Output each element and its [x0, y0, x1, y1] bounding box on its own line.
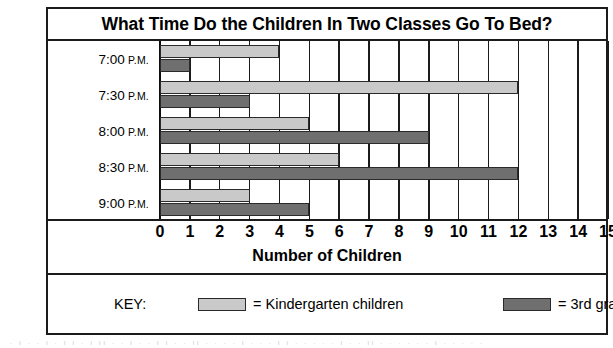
kindergarten-swatch	[198, 298, 246, 311]
bar-kindergarten	[160, 153, 339, 166]
x-tick-label: 2	[215, 223, 224, 241]
x-tick-label: 5	[305, 223, 314, 241]
category-period: P.M.	[125, 162, 149, 174]
plot-band: 7:00 P.M.7:30 P.M.8:00 P.M.8:30 P.M.9:00…	[48, 41, 606, 221]
bar-kindergarten	[160, 81, 518, 94]
gridline-11	[488, 41, 490, 219]
legend-label: = Kindergarten children	[253, 296, 403, 312]
x-tick-label: 7	[365, 223, 374, 241]
category-label: 7:00 P.M.	[99, 52, 149, 67]
x-tick-label: 10	[450, 223, 468, 241]
category-time: 8:30	[99, 160, 125, 175]
title-band: What Time Do the Children In Two Classes…	[48, 9, 606, 41]
x-tick-label: 6	[335, 223, 344, 241]
bar-kindergarten	[160, 45, 279, 58]
x-tick-label: 11	[480, 223, 497, 241]
gridline-15	[607, 41, 609, 219]
x-tick-label: 12	[509, 223, 527, 241]
bar-third-grade	[160, 203, 309, 216]
legend-item: = 3rd grade children	[503, 296, 613, 312]
gridline-14	[577, 41, 579, 219]
scan-artifact: · I · · I · I I · I II · · I · · I I · ·…	[10, 340, 530, 345]
x-tick-label: 9	[424, 223, 433, 241]
x-tick-label: 13	[539, 223, 557, 241]
category-period: P.M.	[125, 90, 149, 102]
x-tick-label: 14	[569, 223, 587, 241]
gridline-13	[548, 41, 550, 219]
third-grade-swatch	[503, 298, 551, 311]
bar-third-grade	[160, 95, 250, 108]
x-tick-label: 8	[394, 223, 403, 241]
legend-item: = Kindergarten children	[198, 296, 403, 312]
gridline-8	[398, 41, 400, 219]
x-tick-label: 4	[275, 223, 284, 241]
category-label: 7:30 P.M.	[99, 88, 149, 103]
bar-third-grade	[160, 131, 429, 144]
bar-kindergarten	[160, 189, 250, 202]
gridline-6	[338, 41, 340, 219]
legend-key-label: KEY:	[114, 296, 146, 312]
gridline-12	[518, 41, 520, 219]
gridline-9	[428, 41, 430, 219]
category-label: 8:30 P.M.	[99, 160, 149, 175]
x-tick-label: 0	[156, 223, 165, 241]
chart-page: Time of Day What Time Do the Children In…	[0, 0, 613, 348]
bar-third-grade	[160, 59, 190, 72]
category-label: 8:00 P.M.	[99, 124, 149, 139]
grid-area	[160, 41, 606, 219]
x-axis-tick-row: 0123456789101112131415	[160, 223, 606, 245]
x-tick-label: 1	[185, 223, 194, 241]
legend-band: KEY: = Kindergarten children= 3rd grade …	[48, 275, 606, 335]
category-time: 7:00	[99, 52, 125, 67]
category-time: 8:00	[99, 124, 125, 139]
category-period: P.M.	[125, 126, 149, 138]
category-time: 9:00	[99, 196, 125, 211]
category-period: P.M.	[125, 54, 149, 66]
x-axis-band: 0123456789101112131415 Number of Childre…	[48, 221, 606, 275]
legend-row: KEY: = Kindergarten children= 3rd grade …	[48, 296, 606, 316]
gridline-4	[279, 41, 281, 219]
bar-third-grade	[160, 167, 518, 180]
gridline-10	[458, 41, 460, 219]
chart-frame: What Time Do the Children In Two Classes…	[46, 7, 608, 335]
chart-title: What Time Do the Children In Two Classes…	[102, 14, 553, 35]
gridline-5	[309, 41, 311, 219]
legend-label: = 3rd grade children	[558, 296, 613, 312]
gridline-7	[368, 41, 370, 219]
category-label-column: 7:00 P.M.7:30 P.M.8:00 P.M.8:30 P.M.9:00…	[48, 41, 160, 219]
bar-kindergarten	[160, 117, 309, 130]
x-tick-label: 15	[599, 223, 613, 241]
x-axis-title: Number of Children	[48, 247, 606, 265]
category-label: 9:00 P.M.	[99, 196, 149, 211]
category-time: 7:30	[99, 88, 125, 103]
x-tick-label: 3	[245, 223, 254, 241]
category-period: P.M.	[125, 198, 149, 210]
